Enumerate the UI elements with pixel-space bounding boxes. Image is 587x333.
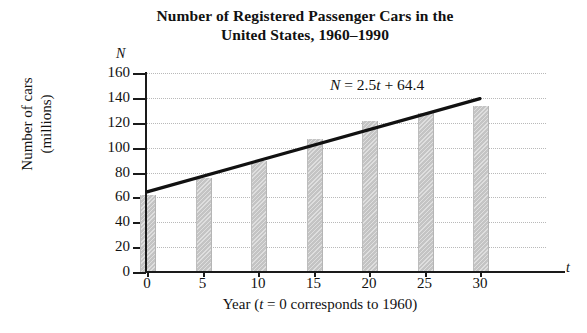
y-axis-tick-label-text: 120 [84, 115, 130, 130]
y-axis-line [145, 72, 147, 273]
y-axis-tick-label-text: 20 [84, 239, 130, 254]
y-axis-tick-label-text: 80 [84, 165, 130, 180]
bar [473, 106, 489, 272]
x-axis-tick-label: 10 [238, 275, 278, 292]
y-axis-tick-label: 20 [84, 239, 130, 254]
y-axis-tick-label: 140 [84, 90, 130, 105]
x-axis-tick-label: 30 [460, 275, 500, 292]
bar [251, 161, 267, 272]
gridline [146, 73, 546, 74]
y-axis-tick-label-text: 160 [84, 65, 130, 80]
y-axis-tick-label-text: 60 [84, 189, 130, 204]
plot-area: 020406080100120140160 051015202530 [0, 0, 587, 333]
y-axis-tick-label-text: 40 [84, 214, 130, 229]
y-axis-tick-label-text: 100 [84, 140, 130, 155]
y-axis-tick-label-text: 140 [84, 90, 130, 105]
y-axis-tick-label: 60 [84, 189, 130, 204]
y-axis-tick-label: 100 [84, 140, 130, 155]
bar [140, 195, 156, 272]
x-axis-tick-label: 20 [349, 275, 389, 292]
x-axis-tick-label: 25 [405, 275, 445, 292]
y-axis-tick-label: 40 [84, 214, 130, 229]
x-axis-tick-label: 15 [294, 275, 334, 292]
equation-equals: = 2.5 [340, 76, 376, 93]
x-axis-tick-label: 5 [183, 275, 223, 292]
equation-rest: + 64.4 [381, 76, 425, 93]
equation-annotation: N = 2.5t + 64.4 [330, 76, 424, 94]
gridline [146, 98, 546, 99]
y-axis-tick-label: 120 [84, 115, 130, 130]
y-axis-tick-label: 160 [84, 65, 130, 80]
y-axis-tick-label-text: 0 [84, 264, 130, 279]
bar [362, 121, 378, 272]
bar [307, 139, 323, 272]
y-axis-tick-label: 0 [84, 264, 130, 279]
equation-variable-n: N [330, 76, 340, 93]
bar [418, 113, 434, 272]
y-axis-tick-label: 80 [84, 165, 130, 180]
bar [196, 178, 212, 272]
x-axis-line [145, 271, 565, 273]
x-axis-tick-label: 0 [127, 275, 167, 292]
